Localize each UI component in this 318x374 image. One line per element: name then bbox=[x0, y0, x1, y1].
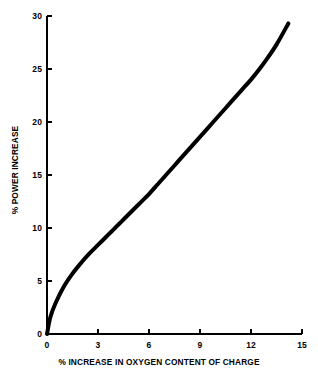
x-axis-tick-label: 12 bbox=[246, 341, 256, 350]
chart-container: 03691215 051015202530 % INCREASE IN OXYG… bbox=[0, 0, 318, 374]
x-axis-tick-label: 15 bbox=[297, 341, 307, 350]
x-axis-title: % INCREASE IN OXYGEN CONTENT OF CHARGE bbox=[0, 357, 318, 367]
data-series-line bbox=[47, 23, 288, 334]
y-axis-tick-label: 25 bbox=[32, 65, 42, 74]
y-axis-tick-label: 10 bbox=[32, 224, 42, 233]
x-axis-tick-label: 0 bbox=[45, 341, 50, 350]
x-axis-tick-label: 9 bbox=[198, 341, 203, 350]
y-axis-tick-label: 5 bbox=[37, 277, 42, 286]
chart-plot-area bbox=[0, 0, 318, 374]
x-axis-tick-label: 3 bbox=[96, 341, 101, 350]
y-axis-tick-label: 15 bbox=[32, 171, 42, 180]
y-axis-tick-label: 0 bbox=[37, 330, 42, 339]
x-axis-tick-label: 6 bbox=[147, 341, 152, 350]
y-axis-tick-label: 30 bbox=[32, 12, 42, 21]
y-axis-tick-label: 20 bbox=[32, 118, 42, 127]
